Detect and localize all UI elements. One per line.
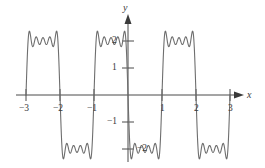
figure-container: −3 −2 −1 1 2 3 2 1 −1 −2 x y bbox=[0, 0, 265, 168]
x-tick-label--1: −1 bbox=[87, 104, 97, 114]
x-tick-label-2: 2 bbox=[194, 104, 199, 114]
x-tick-label-3: 3 bbox=[228, 104, 233, 114]
y-tick-label--1: −1 bbox=[107, 117, 117, 127]
y-axis-arrowhead bbox=[125, 14, 132, 24]
x-tick-label-1: 1 bbox=[160, 104, 165, 114]
plot-svg bbox=[0, 0, 265, 168]
y-axis-label: y bbox=[123, 3, 127, 13]
y-tick-label-2: 2 bbox=[112, 36, 117, 46]
x-tick-label--2: −2 bbox=[53, 104, 63, 114]
x-axis-arrowhead bbox=[234, 92, 244, 99]
x-tick-label--3: −3 bbox=[19, 104, 29, 114]
x-axis-label: x bbox=[247, 90, 251, 100]
y-tick-label--2: −2 bbox=[137, 144, 147, 154]
y-tick-label-1: 1 bbox=[112, 63, 117, 73]
